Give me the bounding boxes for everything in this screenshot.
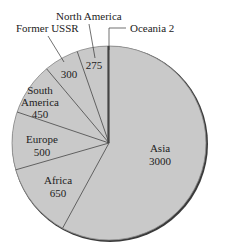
label-ussr-name: Former USSR bbox=[16, 22, 79, 34]
label-samerica-name2: America bbox=[21, 96, 59, 108]
label-africa-value: 650 bbox=[50, 187, 67, 199]
label-samerica-name: South bbox=[27, 84, 53, 96]
label-ussr-value: 300 bbox=[61, 68, 78, 80]
label-asia-name: Asia bbox=[150, 142, 170, 154]
label-africa-name: Africa bbox=[44, 174, 72, 186]
label-europe-name: Europe bbox=[26, 133, 58, 145]
label-asia-value: 3000 bbox=[149, 155, 172, 167]
label-samerica-value: 450 bbox=[32, 108, 49, 120]
label-namerica-value: 275 bbox=[86, 59, 103, 71]
label-oceania: Oceania 2 bbox=[130, 22, 174, 34]
label-namerica-name: North America bbox=[56, 10, 122, 22]
leader-ussr bbox=[48, 36, 64, 62]
pie-chart: Asia 3000 Africa 650 Europe 500 South Am… bbox=[0, 0, 226, 250]
label-europe-value: 500 bbox=[34, 146, 51, 158]
